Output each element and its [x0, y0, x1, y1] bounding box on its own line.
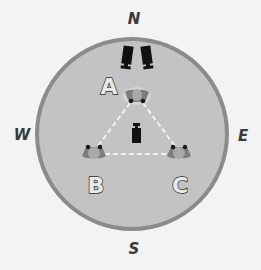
center-speaker-icon	[132, 123, 141, 143]
compass-west: W	[14, 126, 32, 144]
position-label-a: A	[100, 74, 117, 99]
position-label-c: C	[172, 173, 188, 198]
compass-north: N	[128, 10, 141, 28]
compass-south: S	[129, 240, 140, 258]
seating-diagram: N S W E	[0, 0, 261, 270]
position-label-b: B	[88, 173, 105, 198]
compass-east: E	[238, 127, 249, 145]
listener-a-icon	[123, 87, 151, 105]
